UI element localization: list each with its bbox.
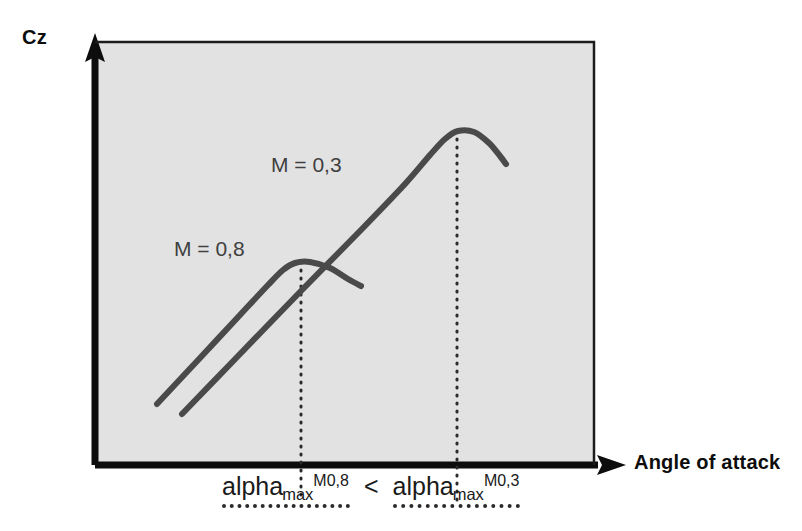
alpha-max-m03-subscript: max — [453, 485, 484, 503]
alpha-max-comparison-note: alphamaxM0,8<alphamaxM0,3 — [222, 472, 520, 508]
alpha-max-m08-subscript: max — [282, 485, 313, 503]
plot-background — [95, 42, 594, 465]
chart-figure: Cz Angle of attack M = 0,3 M = 0,8 alpha… — [0, 0, 802, 531]
series-label-m08: M = 0,8 — [174, 237, 245, 261]
alpha-max-m08-base: alpha — [222, 472, 283, 500]
alpha-max-m03-term: alphamaxM0,3 — [393, 472, 521, 508]
alpha-max-m03-superscript: M0,3 — [484, 472, 520, 489]
alpha-max-m08-term: alphamaxM0,8 — [222, 472, 350, 508]
series-label-m03: M = 0,3 — [271, 153, 342, 177]
alpha-max-m03-base: alpha — [393, 472, 454, 500]
y-axis-title: Cz — [22, 26, 47, 49]
less-than-operator: < — [350, 472, 393, 501]
x-axis-title: Angle of attack — [634, 451, 780, 474]
alpha-max-m08-superscript: M0,8 — [313, 472, 349, 489]
